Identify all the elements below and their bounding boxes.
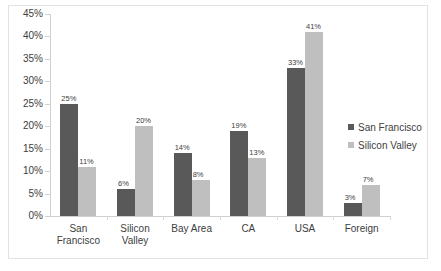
- y-axis-line: [50, 14, 51, 217]
- x-axis-category-label-line: Valley: [107, 235, 164, 247]
- y-axis-tick-label: 10%: [0, 166, 43, 176]
- bar-value-label: 13%: [249, 149, 264, 157]
- y-axis-tick-label: 5%: [0, 189, 43, 199]
- bar-value-label: 3%: [345, 194, 356, 202]
- x-axis-category-label-line: Francisco: [50, 235, 107, 247]
- y-axis-tick-label: 20%: [0, 121, 43, 131]
- x-axis-tick: [390, 216, 391, 220]
- y-axis-tick-label: 35%: [0, 54, 43, 64]
- y-axis-tick: [45, 216, 50, 217]
- bar-1-0: [78, 167, 96, 216]
- legend-swatch-icon: [348, 124, 354, 130]
- y-axis-tick: [45, 126, 50, 127]
- bar-0-1: [117, 189, 135, 216]
- bar-value-label: 7%: [363, 176, 374, 184]
- y-axis-tick-label-text: 10%: [7, 166, 43, 176]
- bar-0-0: [60, 104, 78, 216]
- y-axis-tick-label: 40%: [0, 31, 43, 41]
- y-axis-tick-label-text: 15%: [7, 144, 43, 154]
- y-axis-tick-label-text: 5%: [7, 189, 43, 199]
- y-axis-tick-label-text: 45%: [7, 9, 43, 19]
- bar-1-5: [362, 185, 380, 216]
- bar-value-label: 8%: [193, 171, 204, 179]
- bar-value-label: 14%: [175, 144, 190, 152]
- x-axis-category-label: SanFrancisco: [50, 223, 107, 247]
- x-axis-category-label: USA: [277, 223, 334, 235]
- x-axis-tick: [333, 216, 334, 220]
- x-axis-category-label-line: USA: [277, 223, 334, 235]
- y-axis-tick-label: 45%: [0, 9, 43, 19]
- bar-1-2: [192, 180, 210, 216]
- bar-value-label: 6%: [118, 180, 129, 188]
- x-axis-category-label-line: Bay Area: [163, 223, 220, 235]
- chart-legend: San FranciscoSilicon Valley: [348, 118, 428, 154]
- bar-value-label: 41%: [306, 23, 321, 31]
- y-axis-tick: [45, 171, 50, 172]
- bar-chart: 0%5%10%15%20%25%30%35%40%45% SanFrancisc…: [0, 0, 441, 271]
- x-axis-tick: [163, 216, 164, 220]
- x-axis-category-label-line: CA: [220, 223, 277, 235]
- bar-0-2: [174, 153, 192, 216]
- y-axis-tick: [45, 104, 50, 105]
- x-axis-category-label: SiliconValley: [107, 223, 164, 247]
- y-axis-tick: [45, 81, 50, 82]
- bar-value-label: 20%: [136, 117, 151, 125]
- y-axis-tick-label-text: 20%: [7, 121, 43, 131]
- legend-item[interactable]: Silicon Valley: [348, 136, 428, 154]
- x-axis-category-label: Foreign: [333, 223, 390, 235]
- bar-value-label: 19%: [231, 122, 246, 130]
- x-axis-category-label-line: Silicon: [107, 223, 164, 235]
- y-axis-tick-label: 30%: [0, 76, 43, 86]
- y-axis-tick: [45, 149, 50, 150]
- legend-item-label: Silicon Valley: [358, 140, 417, 151]
- y-axis-tick-label-text: 25%: [7, 99, 43, 109]
- y-axis-tick: [45, 194, 50, 195]
- x-axis-category-label-line: Foreign: [333, 223, 390, 235]
- y-axis-tick-label-text: 35%: [7, 54, 43, 64]
- y-axis-tick: [45, 36, 50, 37]
- y-axis-tick-label-text: 30%: [7, 76, 43, 86]
- x-axis-tick: [220, 216, 221, 220]
- bar-1-4: [305, 32, 323, 216]
- bar-value-label: 33%: [288, 59, 303, 67]
- bar-0-4: [287, 68, 305, 216]
- bar-value-label: 25%: [61, 95, 76, 103]
- legend-item-label: San Francisco: [358, 122, 422, 133]
- x-axis-category-label-line: San: [50, 223, 107, 235]
- y-axis-tick: [45, 59, 50, 60]
- legend-item[interactable]: San Francisco: [348, 118, 428, 136]
- y-axis-tick-label: 15%: [0, 144, 43, 154]
- y-axis-tick-label-text: 0%: [7, 211, 43, 221]
- bar-1-1: [135, 126, 153, 216]
- x-axis-tick: [277, 216, 278, 220]
- x-axis-tick: [107, 216, 108, 220]
- legend-swatch-icon: [348, 142, 354, 148]
- x-axis-category-label: Bay Area: [163, 223, 220, 235]
- bar-0-5: [344, 203, 362, 216]
- y-axis-tick-label-text: 40%: [7, 31, 43, 41]
- x-axis-category-label: CA: [220, 223, 277, 235]
- y-axis-tick-label: 25%: [0, 99, 43, 109]
- y-axis-tick: [45, 14, 50, 15]
- bar-value-label: 11%: [79, 158, 93, 166]
- bar-0-3: [230, 131, 248, 216]
- bar-1-3: [248, 158, 266, 216]
- y-axis-tick-label: 0%: [0, 211, 43, 221]
